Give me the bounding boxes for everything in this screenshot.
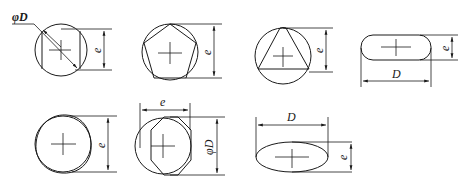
label-D: D [391, 67, 401, 81]
label-e: e [160, 95, 166, 109]
label-e: e [200, 49, 214, 55]
figure-7-ellipse: D e [256, 110, 352, 172]
label-D: D [286, 110, 296, 124]
label-phiD: φD [12, 10, 28, 24]
label-e: e [438, 45, 452, 51]
label-e: e [90, 47, 104, 53]
figure-1-circle-square: φD e [12, 10, 112, 76]
label-e: e [336, 154, 350, 160]
shape-diagram: φD e e e D e [0, 0, 467, 190]
figure-4-slot: D e [361, 35, 458, 87]
figure-2-circle-pentagon: e [142, 24, 222, 80]
label-phiD: φD [202, 139, 216, 155]
figure-3-circle-triangle: e [255, 28, 333, 85]
figure-6-circle-hexagon: e φD [135, 95, 225, 175]
label-e: e [94, 142, 108, 148]
label-e: e [312, 47, 326, 53]
figure-5-lobed-circle: e [35, 115, 117, 173]
